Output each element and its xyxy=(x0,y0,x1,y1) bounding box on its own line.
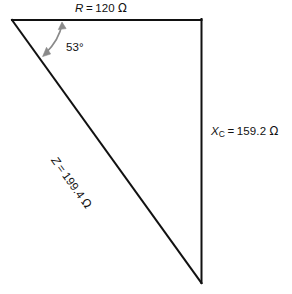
impedance-triangle-figure: R=120 Ω XC=159.2 Ω Z=199.4 Ω 53° xyxy=(0,0,292,294)
triangle-drawing xyxy=(0,0,292,294)
ohm-icon: Ω xyxy=(269,124,278,138)
angle-arc-arrow xyxy=(43,22,67,57)
resistance-equals: = xyxy=(83,2,95,14)
reactance-symbol: XC xyxy=(211,125,225,137)
angle-arrow-head-upper xyxy=(58,22,66,30)
reactance-symbol-base: X xyxy=(211,125,219,137)
resistance-value: 120 xyxy=(95,2,115,14)
degree-icon: ° xyxy=(79,41,84,53)
angle-value: 53 xyxy=(66,41,79,53)
resistance-label: R=120 Ω xyxy=(75,3,127,15)
reactance-label: XC=159.2 Ω xyxy=(211,126,278,138)
impedance-side-line xyxy=(12,20,202,283)
reactance-value: 159.2 xyxy=(237,125,266,137)
ohm-icon: Ω xyxy=(118,1,127,15)
angle-label: 53° xyxy=(66,42,84,54)
reactance-equals: = xyxy=(225,125,237,137)
